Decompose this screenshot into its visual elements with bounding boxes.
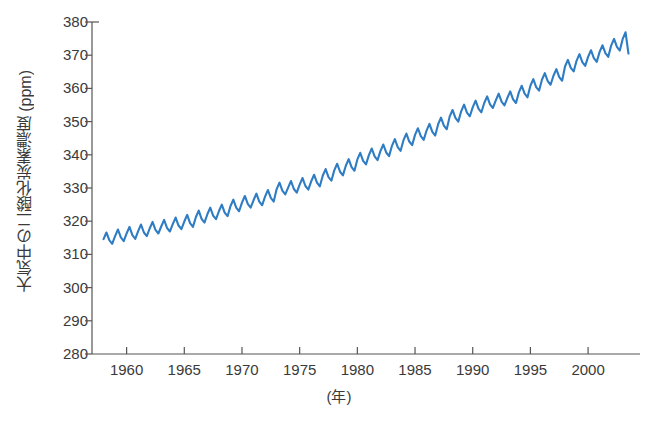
plot-area xyxy=(0,0,654,427)
axis-ticks xyxy=(85,22,588,354)
co2-series-line xyxy=(104,32,629,243)
co2-chart-figure: 大気中の二酸化炭素濃度 (ppm) 2802903003103203303403… xyxy=(0,0,654,427)
